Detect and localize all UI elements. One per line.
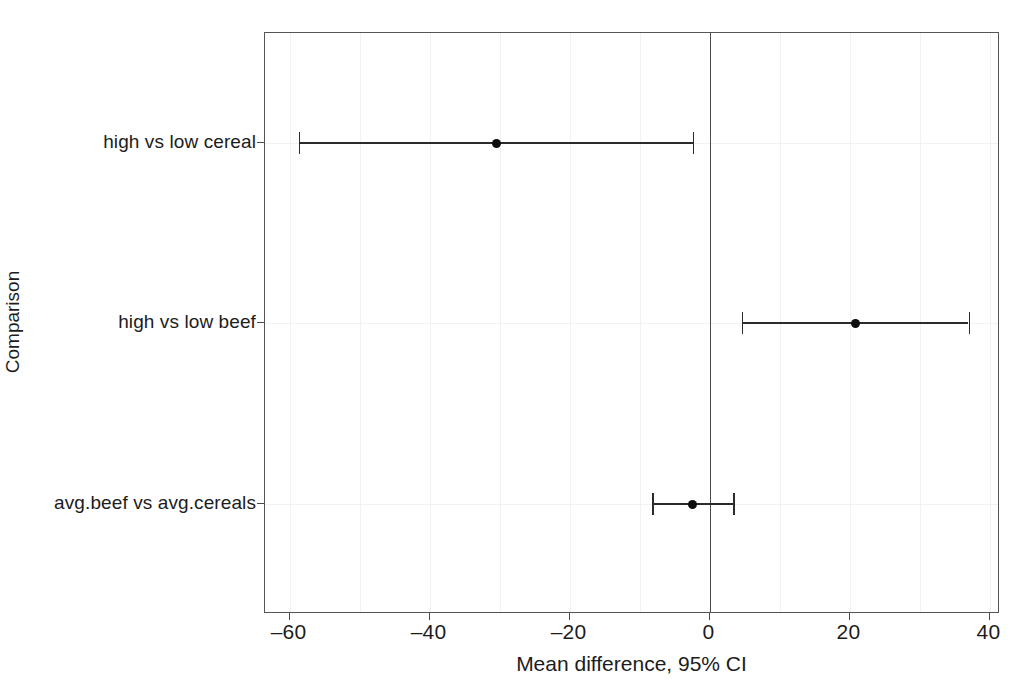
y-tick-mark (257, 142, 264, 143)
y-tick-label: avg.beef vs avg.cereals (54, 492, 256, 514)
x-tick-label: –20 (551, 620, 587, 644)
x-tick-label: –60 (271, 620, 307, 644)
x-tick-mark (989, 613, 990, 620)
forest-plot-figure: –60–40–2002040 high vs low cerealhigh vs… (0, 0, 1025, 690)
ci-cap-lower (742, 312, 744, 334)
x-tick-mark (709, 613, 710, 620)
gridline-horizontal (265, 504, 998, 505)
x-tick-label: –40 (411, 620, 447, 644)
y-tick-mark (257, 503, 264, 504)
ci-cap-upper (969, 312, 971, 334)
x-tick-mark (429, 613, 430, 620)
x-tick-label: 20 (837, 620, 861, 644)
ci-cap-lower (299, 132, 301, 154)
y-tick-label: high vs low cereal (103, 131, 256, 153)
ci-cap-upper (733, 493, 735, 515)
zero-reference-line (710, 33, 711, 612)
y-tick-mark (257, 322, 264, 323)
estimate-marker (688, 500, 697, 509)
x-tick-label: 40 (977, 620, 1001, 644)
plot-area (264, 32, 999, 613)
y-tick-label: high vs low beef (118, 311, 256, 333)
ci-cap-upper (693, 132, 695, 154)
ci-cap-lower (652, 493, 654, 515)
x-tick-label: 0 (703, 620, 715, 644)
x-tick-mark (849, 613, 850, 620)
estimate-marker (492, 139, 501, 148)
x-tick-mark (569, 613, 570, 620)
x-tick-mark (289, 613, 290, 620)
estimate-marker (851, 319, 860, 328)
y-axis-title: Comparison (2, 271, 24, 373)
x-axis-title: Mean difference, 95% CI (264, 652, 999, 676)
